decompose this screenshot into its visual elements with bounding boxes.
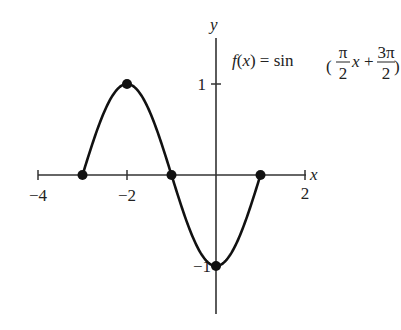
key-point: [122, 79, 132, 89]
function-formula: f(x) = sin ( π 2 x + 3π 2 ): [232, 43, 400, 83]
key-point: [256, 170, 266, 180]
frac1-den: 2: [339, 64, 348, 83]
y-axis-label: y: [208, 15, 218, 34]
left-paren: (: [326, 57, 332, 76]
svg-text:f(x) = sin: f(x) = sin: [232, 51, 294, 70]
x-axis-label: x: [309, 165, 318, 184]
key-point: [167, 170, 177, 180]
frac2-den: 2: [382, 64, 391, 83]
formula-x: x: [351, 52, 360, 71]
right-paren: ): [394, 57, 400, 76]
y-tick-label-1: 1: [198, 75, 207, 94]
sine-graph: −4 −2 2 1 −1 x y f(x) = sin ( π 2 x + 3π…: [0, 0, 401, 330]
x-tick-label-neg4: −4: [29, 186, 48, 205]
frac2-num: 3π: [377, 43, 395, 62]
frac1-num: π: [339, 43, 348, 62]
key-point: [211, 261, 221, 271]
formula-plus: +: [364, 52, 374, 71]
x-tick-label-neg2: −2: [118, 186, 136, 205]
y-tick-label-neg1: −1: [193, 257, 211, 276]
x-tick-label-2: 2: [301, 184, 310, 203]
key-point: [78, 170, 88, 180]
